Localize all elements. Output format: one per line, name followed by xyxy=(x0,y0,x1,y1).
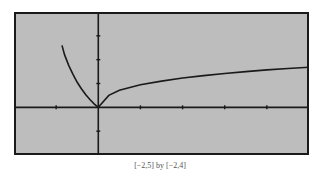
window-caption: [−2,5] by [−2,4] xyxy=(0,161,320,170)
curve-left-branch xyxy=(62,45,98,107)
graph-plot xyxy=(14,12,309,155)
curve-right-branch xyxy=(98,67,309,107)
